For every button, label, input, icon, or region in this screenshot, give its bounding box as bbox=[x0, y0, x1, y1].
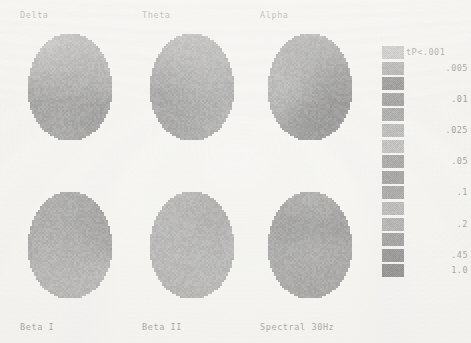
head-topomap-canvas-theta bbox=[146, 32, 238, 142]
head-topomap-delta bbox=[24, 32, 116, 142]
legend-swatch-5 bbox=[382, 124, 404, 137]
legend-row-10 bbox=[382, 202, 468, 217]
legend-label-5: .025 bbox=[446, 125, 468, 136]
legend-swatch-2 bbox=[382, 77, 404, 90]
legend-label-9: .1 bbox=[457, 187, 468, 198]
legend-label-13: .45 bbox=[451, 250, 468, 261]
legend-swatch-3 bbox=[382, 93, 404, 106]
map-panel-delta: Delta bbox=[18, 10, 122, 160]
legend-row-11: .2 bbox=[382, 218, 468, 233]
legend-swatch-14 bbox=[382, 264, 404, 277]
legend-row-13: .45 bbox=[382, 249, 468, 264]
legend-swatch-7 bbox=[382, 155, 404, 168]
legend-label-14: 1.0 bbox=[451, 265, 468, 276]
legend-row-9: .1 bbox=[382, 186, 468, 201]
legend-row-0: tP<.001 bbox=[382, 46, 468, 61]
legend-row-5: .025 bbox=[382, 124, 468, 139]
map-panel-beta2: Beta II bbox=[140, 178, 244, 328]
map-title-alpha: Alpha bbox=[260, 10, 289, 20]
map-caption-beta2: Beta II bbox=[142, 322, 182, 332]
legend-row-2 bbox=[382, 77, 468, 92]
map-panel-spectral30: Spectral 30Hz bbox=[258, 178, 362, 328]
head-topomap-spectral30 bbox=[264, 190, 356, 300]
head-topomap-canvas-beta1 bbox=[24, 190, 116, 300]
map-caption-spectral30: Spectral 30Hz bbox=[260, 322, 334, 332]
legend-label-1: .005 bbox=[446, 63, 468, 74]
legend-label-7: .05 bbox=[451, 156, 468, 167]
head-topomap-canvas-spectral30 bbox=[264, 190, 356, 300]
legend-row-1: .005 bbox=[382, 62, 468, 77]
map-panel-theta: Theta bbox=[140, 10, 244, 160]
map-panel-alpha: Alpha bbox=[258, 10, 362, 160]
legend-row-14: 1.0 bbox=[382, 264, 468, 279]
head-topomap-canvas-alpha bbox=[264, 32, 356, 142]
legend-swatch-1 bbox=[382, 62, 404, 75]
legend-swatch-10 bbox=[382, 202, 404, 215]
colorbar-legend: tP<.001.005.01.025.05.1.2.451.0 bbox=[382, 46, 468, 290]
legend-label-3: .01 bbox=[451, 94, 468, 105]
legend-swatch-4 bbox=[382, 108, 404, 121]
map-caption-beta1: Beta I bbox=[20, 322, 54, 332]
legend-swatch-11 bbox=[382, 218, 404, 231]
legend-swatch-8 bbox=[382, 171, 404, 184]
head-topomap-beta1 bbox=[24, 190, 116, 300]
legend-label-0: tP<.001 bbox=[406, 47, 445, 58]
legend-row-4 bbox=[382, 108, 468, 123]
map-panel-beta1: Beta I bbox=[18, 178, 122, 328]
map-title-theta: Theta bbox=[142, 10, 171, 20]
legend-row-8 bbox=[382, 171, 468, 186]
map-title-delta: Delta bbox=[20, 10, 49, 20]
head-topomap-beta2 bbox=[146, 190, 238, 300]
legend-swatch-12 bbox=[382, 233, 404, 246]
eeg-significance-figure: DeltaThetaAlphaBeta IBeta IISpectral 30H… bbox=[0, 0, 471, 343]
head-topomap-theta bbox=[146, 32, 238, 142]
legend-swatch-9 bbox=[382, 186, 404, 199]
legend-row-7: .05 bbox=[382, 155, 468, 170]
legend-row-12 bbox=[382, 233, 468, 248]
legend-swatch-0 bbox=[382, 46, 404, 59]
legend-swatch-6 bbox=[382, 140, 404, 153]
head-topomap-canvas-delta bbox=[24, 32, 116, 142]
head-topomap-canvas-beta2 bbox=[146, 190, 238, 300]
head-topomap-alpha bbox=[264, 32, 356, 142]
legend-label-11: .2 bbox=[457, 219, 468, 230]
legend-swatch-13 bbox=[382, 249, 404, 262]
legend-row-3: .01 bbox=[382, 93, 468, 108]
legend-row-6 bbox=[382, 140, 468, 155]
